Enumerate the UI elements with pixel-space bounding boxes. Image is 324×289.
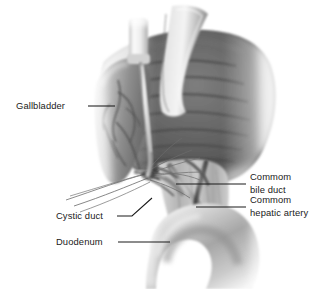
- label-cystic-duct: Cystic duct: [56, 210, 103, 221]
- label-common-hepatic-artery-line2: hepatic artery: [250, 207, 308, 218]
- label-gallbladder: Gallbladder: [16, 100, 65, 111]
- label-common-hepatic-artery-line1: Commom: [250, 194, 291, 205]
- label-common-bile-duct-line1: Commom: [250, 171, 291, 182]
- medical-illustration: Gallbladder Commom bile duct Commom hepa…: [0, 0, 324, 289]
- label-duodenum: Duodenum: [56, 236, 103, 247]
